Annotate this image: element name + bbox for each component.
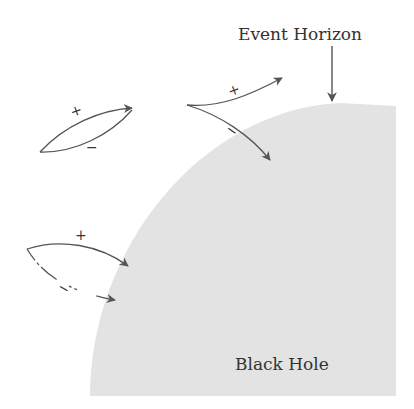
black-hole-region bbox=[90, 103, 396, 396]
particle-pair-1: + − bbox=[40, 101, 132, 155]
minus-sign: − bbox=[86, 139, 98, 155]
plus-sign: + bbox=[68, 101, 84, 120]
minus-sign: − bbox=[55, 278, 73, 298]
plus-sign: + bbox=[226, 80, 242, 99]
black-hole-diagram: Event Horizon Black Hole + − + − + − bbox=[0, 0, 414, 409]
event-horizon-label: Event Horizon bbox=[238, 24, 362, 44]
plus-sign: + bbox=[75, 227, 87, 243]
black-hole-label: Black Hole bbox=[235, 354, 329, 374]
